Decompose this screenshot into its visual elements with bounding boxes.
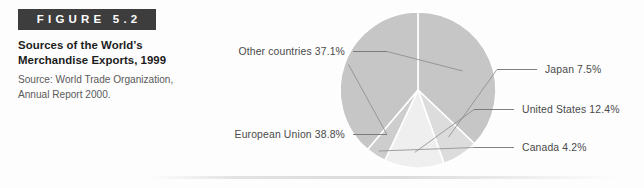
figure-title: Sources of the World’s Merchandise Expor…: [18, 38, 204, 67]
pie-slice-group: [340, 12, 496, 168]
pie-chart-area: Other countries 37.1% European Union 38.…: [190, 0, 644, 188]
figure-title-line-2: Merchandise Exports, 1999: [18, 53, 204, 68]
figure-source-note: Source: World Trade Organization, Annual…: [18, 72, 208, 102]
scan-artifact-line: [150, 176, 620, 179]
pie-label-japan: Japan 7.5%: [545, 64, 601, 75]
figure-number-label: FIGURE 5.2: [33, 14, 142, 26]
pie-chart-svg: [190, 0, 644, 188]
figure-number-banner: FIGURE 5.2: [18, 9, 156, 30]
figure-source-line-1: Source: World Trade Organization,: [18, 72, 208, 87]
pie-label-european-union: European Union 38.8%: [235, 129, 345, 140]
pie-label-united-states: United States 12.4%: [522, 104, 620, 115]
caption-block: FIGURE 5.2 Sources of the World’s Mercha…: [0, 0, 210, 188]
figure-container: FIGURE 5.2 Sources of the World’s Mercha…: [0, 0, 644, 188]
pie-label-other-countries: Other countries 37.1%: [238, 46, 345, 57]
pie-label-canada: Canada 4.2%: [522, 142, 587, 153]
figure-source-line-2: Annual Report 2000.: [18, 87, 208, 102]
figure-title-line-1: Sources of the World’s: [18, 38, 204, 53]
